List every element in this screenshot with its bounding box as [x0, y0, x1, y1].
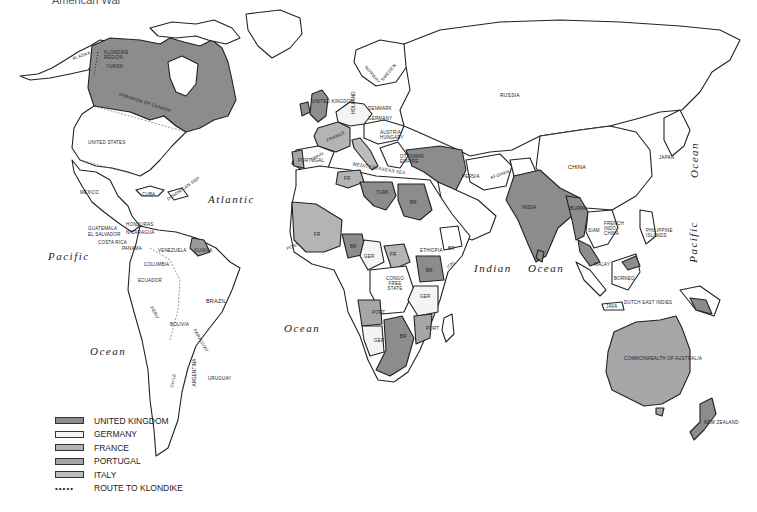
ocean-label-atlantic: Atlantic	[208, 193, 255, 205]
map-legend: UNITED KINGDOM GERMANY FRANCE PORTUGAL I…	[55, 414, 183, 495]
label-br-nigeria: BR	[350, 244, 357, 249]
label-fr-eq: FR	[390, 252, 396, 257]
label-french-indochina: French Indo-China	[604, 221, 628, 236]
legend-label: ROUTE TO KLONDIKE	[94, 483, 183, 493]
swatch-france	[55, 444, 84, 451]
label-new-zealand: New Zealand	[704, 420, 739, 425]
region-uk	[310, 90, 328, 122]
region-sumatra	[576, 262, 606, 296]
label-panama: Panama	[122, 246, 142, 251]
swatch-germany	[55, 431, 84, 438]
ocean-label-ocean-ne: Ocean	[688, 142, 700, 178]
swatch-portugal	[55, 458, 84, 465]
label-commonwealth-of-australia: Commonwealth of Australia	[624, 356, 702, 361]
label-br-egypt: BR	[410, 200, 417, 205]
label-fr-algeria: FR	[344, 176, 350, 181]
label-venezuela: Venezuela	[158, 248, 187, 253]
label-brazil: Brazil	[206, 298, 226, 304]
label-united-states: United States	[88, 140, 148, 145]
legend-label: FRANCE	[94, 443, 129, 453]
ocean-label-ocean-sw: Ocean	[90, 345, 126, 357]
label-yukon: Yukon	[106, 64, 123, 69]
label-holland: Holland	[351, 91, 356, 114]
label-guiana: Guiana	[194, 248, 212, 253]
label-turk: Turk	[376, 190, 389, 195]
label-borneo: Borneo	[614, 276, 635, 281]
label-germany: Germany	[368, 116, 392, 121]
swatch-italy	[55, 471, 84, 478]
label-guatemala: Guatemala	[88, 226, 117, 231]
label-colombia: Columbia	[144, 262, 169, 267]
label-uruguay: Uruguay	[208, 376, 232, 381]
label-siam: Siam	[588, 228, 600, 233]
label-br-somali: BR	[448, 246, 455, 251]
swatch-united-kingdom	[55, 417, 84, 424]
label-ger-east: GER	[420, 294, 430, 299]
label-philippine-islands: Philippine Islands	[646, 228, 676, 238]
label-ger-southwest: GER	[374, 338, 384, 343]
label-ger-cameroon: GER	[364, 254, 374, 259]
legend-label: PORTUGAL	[94, 456, 141, 466]
label-persia: Persia	[462, 174, 480, 179]
legend-item-germany: GERMANY	[55, 428, 183, 442]
label-denmark: Denmark	[368, 106, 392, 111]
region-madagascar	[442, 314, 454, 342]
label-burma: Burma	[570, 206, 587, 211]
region-philippines	[640, 210, 656, 244]
ocean-label-indian-ocean: Ocean	[528, 262, 564, 274]
label-klondike: Klondike Region	[104, 50, 130, 60]
label-russia: Russia	[500, 92, 520, 98]
legend-item-united-kingdom: UNITED KINGDOM	[55, 414, 183, 428]
label-cuba: Cuba	[142, 192, 155, 197]
label-fr-west: FR	[314, 232, 320, 237]
label-congo-free-state: Congo Free State	[384, 276, 406, 291]
region-tasmania	[656, 408, 664, 416]
label-ecuador: Ecuador	[138, 278, 162, 283]
label-ottoman-empire: Ottoman Empire	[400, 154, 430, 162]
label-mexico: Mexico	[80, 190, 99, 195]
label-dutch-east-indies: Dutch East Indies	[624, 300, 672, 305]
region-australia	[606, 316, 690, 406]
legend-item-portugal: PORTUGAL	[55, 455, 183, 469]
arctic-islands	[150, 20, 240, 44]
label-honduras: Honduras	[126, 222, 153, 227]
label-argentina: Argentina	[192, 358, 197, 386]
label-china: China	[568, 164, 586, 170]
legend-label: UNITED KINGDOM	[94, 416, 169, 426]
greenland	[246, 10, 302, 58]
label-java: Java	[606, 304, 617, 309]
label-bolivia: Bolivia	[170, 322, 189, 327]
label-india: India	[522, 204, 536, 210]
label-port-mozambique: PORT	[426, 326, 439, 331]
legend-label: GERMANY	[94, 429, 137, 439]
label-united-kingdom: United Kingdom	[312, 99, 354, 104]
ocean-label-pacific-east: Pacific	[687, 221, 699, 263]
ocean-label-pacific-west: Pacific	[48, 250, 90, 262]
legend-item-italy: ITALY	[55, 468, 183, 482]
region-ireland	[300, 102, 310, 116]
ocean-label-ocean-south-atlantic: Ocean	[284, 322, 320, 334]
region-new-zealand	[690, 398, 716, 440]
label-nicaragua: Nicaragua	[126, 230, 155, 235]
legend-item-france: FRANCE	[55, 441, 183, 455]
label-portugal: Portugal	[298, 158, 324, 163]
label-malay: Malay	[594, 262, 610, 267]
label-br-south: BR	[400, 334, 407, 339]
label-port-angola: PORT	[372, 310, 385, 315]
ocean-label-indian: Indian	[474, 262, 512, 274]
label-el-salvador: El Salvador	[88, 232, 121, 237]
region-japan	[664, 110, 690, 156]
legend-label: ITALY	[94, 470, 116, 480]
legend-item-route: ••••• ROUTE TO KLONDIKE	[55, 482, 183, 496]
label-japan: Japan	[659, 155, 674, 160]
map-title: American War	[52, 0, 121, 6]
label-austria-hungary: Austria-Hungary	[380, 130, 410, 140]
label-br-east: BR	[426, 268, 433, 273]
label-costa-rica: Costa Rica	[98, 240, 127, 245]
dotted-route-icon: •••••	[55, 485, 84, 492]
label-ethiopia: Ethiopia	[420, 248, 443, 253]
